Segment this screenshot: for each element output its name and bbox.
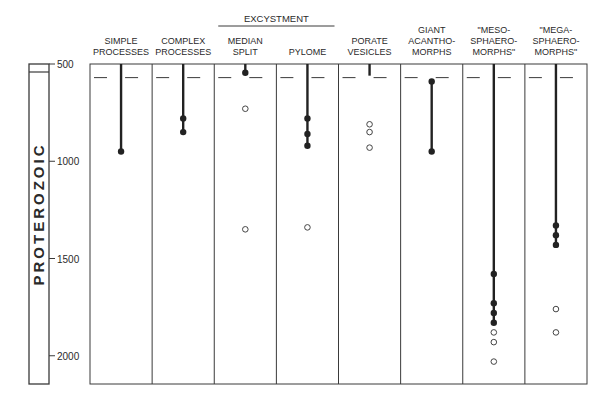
category-label: PROCESSES xyxy=(93,47,149,57)
era-label: PROTEROZOIC xyxy=(30,142,47,285)
solid-point xyxy=(304,142,310,148)
proterozoic-range-chart: PROTEROZOIC500100015002000SIMPLEPROCESSE… xyxy=(0,0,616,406)
category-column: SIMPLEPROCESSES xyxy=(93,36,149,155)
category-column: PYLOME xyxy=(276,47,326,384)
solid-point xyxy=(553,232,559,238)
open-point xyxy=(367,129,373,135)
solid-point xyxy=(118,148,124,154)
category-label: SIMPLE xyxy=(105,36,138,46)
chart-canvas: PROTEROZOIC500100015002000SIMPLEPROCESSE… xyxy=(0,0,616,406)
y-tick-label: 2000 xyxy=(57,351,80,362)
open-point xyxy=(305,225,311,231)
solid-point xyxy=(242,70,248,76)
category-label: COMPLEX xyxy=(161,36,205,46)
category-label: PORATE xyxy=(351,36,387,46)
solid-point xyxy=(304,115,310,121)
category-label: PROCESSES xyxy=(155,47,211,57)
open-point xyxy=(491,339,497,345)
category-label: MORPHS" xyxy=(535,47,578,57)
category-label: "MESO- xyxy=(477,25,510,35)
category-column: "MESO-SPHAERO-MORPHS" xyxy=(463,25,518,384)
category-label: MORPHS" xyxy=(472,47,515,57)
solid-point xyxy=(304,131,310,137)
category-label: VESICLES xyxy=(348,47,392,57)
category-label: "MEGA- xyxy=(540,25,573,35)
category-column: PORATEVESICLES xyxy=(339,36,392,384)
category-label: SPHAERO- xyxy=(532,36,579,46)
open-point xyxy=(491,330,497,336)
category-label: MEDIAN xyxy=(228,36,263,46)
open-point xyxy=(491,359,497,365)
category-label: PYLOME xyxy=(289,47,327,57)
category-label: GIANT xyxy=(418,25,446,35)
open-point xyxy=(367,145,373,151)
category-column: "MEGA-SPHAERO-MORPHS" xyxy=(525,25,580,384)
category-label: MORPHS xyxy=(412,47,452,57)
open-point xyxy=(367,121,373,127)
open-point xyxy=(553,306,559,312)
category-column: COMPLEXPROCESSES xyxy=(152,36,211,384)
group-header-excystment: EXCYSTMENT xyxy=(244,13,309,24)
y-tick-label: 500 xyxy=(57,59,74,70)
category-column: GIANTACANTHO-MORPHS xyxy=(401,25,456,384)
open-point xyxy=(243,227,249,233)
solid-point xyxy=(428,78,434,84)
category-label: SPLIT xyxy=(233,47,259,57)
y-tick-label: 1500 xyxy=(57,254,80,265)
category-column: MEDIANSPLIT xyxy=(214,36,263,384)
y-tick-label: 1000 xyxy=(57,156,80,167)
solid-point xyxy=(553,242,559,248)
category-label: ACANTHO- xyxy=(408,36,455,46)
open-point xyxy=(243,106,249,112)
solid-point xyxy=(553,222,559,228)
category-label: SPHAERO- xyxy=(470,36,517,46)
solid-point xyxy=(180,129,186,135)
open-point xyxy=(553,330,559,336)
solid-point xyxy=(428,148,434,154)
solid-point xyxy=(180,115,186,121)
